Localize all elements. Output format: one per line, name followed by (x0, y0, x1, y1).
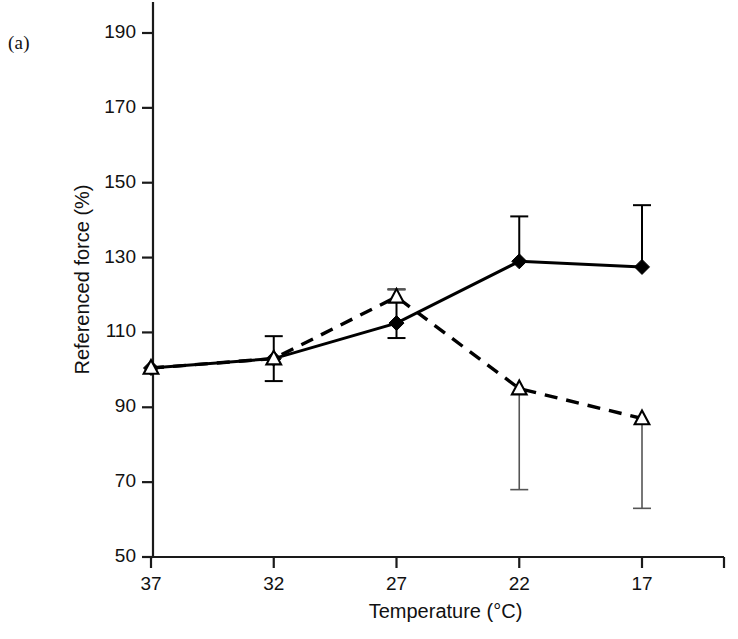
axes (142, 2, 724, 568)
y-tick-label: 50 (76, 545, 136, 567)
data-series (144, 205, 652, 508)
x-tick-label: 17 (612, 573, 672, 595)
x-tick-label: 22 (489, 573, 549, 595)
y-tick-label: 90 (76, 395, 136, 417)
y-tick-label: 170 (76, 96, 136, 118)
y-tick-label: 110 (76, 320, 136, 342)
data-point-marker (389, 289, 404, 303)
x-tick-label: 27 (367, 573, 427, 595)
figure-panel: (a) Referenced force (%) Temperature (°C… (0, 0, 738, 639)
data-point-marker (512, 254, 527, 269)
y-tick-label: 70 (76, 470, 136, 492)
y-tick-label: 150 (76, 171, 136, 193)
data-point-marker (389, 316, 404, 331)
x-tick-label: 37 (121, 573, 181, 595)
data-point-marker (635, 259, 650, 274)
y-tick-label: 130 (76, 246, 136, 268)
y-tick-label: 190 (76, 21, 136, 43)
x-tick-label: 32 (244, 573, 304, 595)
